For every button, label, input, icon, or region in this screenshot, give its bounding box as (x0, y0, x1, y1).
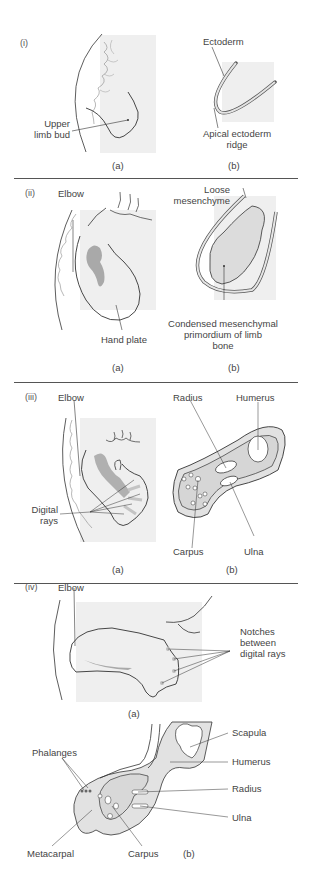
divider (14, 178, 298, 179)
panel-iv-b-label: (b) (183, 848, 195, 859)
panel-ii-b-label: (b) (228, 362, 240, 373)
stage-ii-a-drawing (55, 192, 156, 330)
label-line: between (240, 637, 285, 648)
label-line: limb bud (28, 129, 70, 140)
label-line: Loose (172, 184, 230, 195)
stage-iv-b-drawing (52, 722, 228, 846)
stage-i-label: (i) (20, 38, 28, 48)
stage-i-b-drawing (212, 47, 275, 128)
label-hand-plate: Hand plate (101, 334, 147, 345)
label-loose-mesenchyme: Loose mesenchyme (172, 184, 230, 206)
label-ulna: Ulna (232, 812, 252, 823)
label-line: Upper (28, 118, 70, 129)
label-elbow: Elbow (58, 188, 84, 199)
stage-i-a-drawing (72, 34, 156, 153)
label-line: ridge (192, 139, 282, 150)
label-line: Condensed mesenchymal (166, 318, 280, 329)
label-radius: Radius (232, 783, 262, 794)
stage-iv-a-drawing (53, 588, 230, 702)
panel-i-b-label: (b) (228, 160, 240, 171)
label-line: Apical ectoderm (192, 128, 282, 139)
label-line: mesenchyme (172, 195, 230, 206)
stage-iv-label: (iv) (25, 582, 38, 592)
label-line: Notches (240, 626, 285, 637)
label-humerus: Humerus (232, 756, 271, 767)
stage-ii-label: (ii) (25, 188, 35, 198)
label-line: rays (14, 515, 58, 526)
label-carpus: Carpus (128, 848, 159, 859)
label-line: Digital (14, 504, 58, 515)
divider (14, 382, 298, 383)
label-phalanges: Phalanges (32, 747, 77, 758)
label-apical-ectoderm-ridge: Apical ectoderm ridge (192, 128, 282, 150)
divider (14, 583, 298, 584)
stage-iii-a-drawing (60, 400, 156, 542)
panel-iii-b-label: (b) (226, 564, 238, 575)
label-digital-rays: Digital rays (14, 504, 58, 526)
label-metacarpal: Metacarpal (27, 848, 74, 859)
label-elbow: Elbow (58, 582, 84, 593)
label-radius: Radius (173, 392, 203, 403)
label-notches-between-digital-rays: Notches between digital rays (240, 626, 285, 659)
panel-iii-a-label: (a) (112, 564, 124, 575)
label-line: primordium of limb (166, 329, 280, 340)
label-carpus: Carpus (173, 546, 204, 557)
label-line: bone (166, 340, 280, 351)
label-humerus: Humerus (236, 392, 275, 403)
label-scapula: Scapula (232, 727, 266, 738)
label-condensed-mesenchymal-primordium: Condensed mesenchymal primordium of limb… (166, 318, 280, 351)
panel-iv-a-label: (a) (128, 708, 140, 719)
stage-iii-b-drawing (173, 400, 285, 548)
panel-i-a-label: (a) (112, 160, 124, 171)
label-line: digital rays (240, 648, 285, 659)
label-ulna: Ulna (244, 546, 264, 557)
label-upper-limb-bud: Upper limb bud (28, 118, 70, 140)
label-elbow: Elbow (58, 392, 84, 403)
panel-ii-a-label: (a) (112, 362, 124, 373)
stage-iii-label: (iii) (25, 392, 37, 402)
label-ectoderm: Ectoderm (203, 36, 244, 47)
